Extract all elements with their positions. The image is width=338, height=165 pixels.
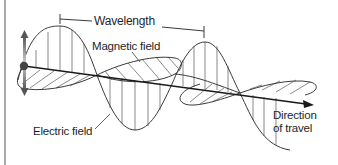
direction-line1: Direction — [273, 109, 317, 122]
magnetic-field-wave — [17, 57, 316, 105]
electric-field-label: Electric field — [33, 125, 92, 137]
down-arrow-icon — [21, 88, 29, 96]
direction-line2: of travel — [273, 122, 317, 135]
origin-marker — [20, 30, 29, 96]
up-arrow-icon — [21, 30, 29, 38]
origin-dot — [20, 62, 28, 70]
em-wave-diagram: Wavelength Magnetic field Electric field… — [0, 0, 338, 165]
arrowhead-icon — [303, 100, 314, 108]
wave-figure — [0, 0, 338, 165]
electric-leader — [95, 114, 110, 129]
direction-of-travel-label: Direction of travel — [273, 109, 317, 135]
magnetic-field-label: Magnetic field — [92, 40, 160, 52]
wavelength-label: Wavelength — [94, 15, 155, 27]
